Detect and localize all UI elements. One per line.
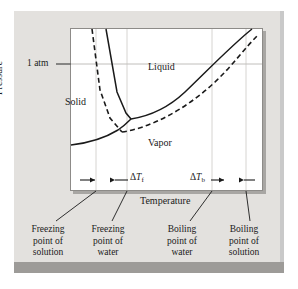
callout-line-3: water bbox=[152, 247, 212, 259]
callout-line-2: point of bbox=[214, 236, 274, 248]
delta-tf-label: ΔTf bbox=[130, 172, 144, 184]
callout-freezing-point-water: Freezing point of water bbox=[78, 224, 138, 259]
vertical-gridlines bbox=[96, 29, 246, 190]
water-liquid-vapor-curve bbox=[131, 29, 252, 119]
subscript-b: b bbox=[201, 176, 205, 184]
subscript-f: f bbox=[141, 176, 143, 184]
leader-boiling-point-water bbox=[190, 191, 212, 221]
callout-line-1: Boiling bbox=[152, 224, 212, 236]
callout-boiling-point-solution: Boiling point of solution bbox=[214, 224, 274, 259]
liquid-region-label: Liquid bbox=[148, 61, 175, 72]
callout-boiling-point-water: Boiling point of water bbox=[152, 224, 212, 259]
leader-boiling-point-solution bbox=[246, 191, 250, 221]
solution-liquid-vapor-curve bbox=[122, 35, 258, 132]
callout-line-2: point of bbox=[78, 236, 138, 248]
callout-line-1: Freezing bbox=[18, 224, 78, 236]
y-axis-label: Pressure bbox=[0, 15, 4, 95]
leader-freezing-point-water bbox=[112, 191, 127, 221]
delta-tb-label: ΔTb bbox=[190, 172, 205, 184]
callout-line-3: solution bbox=[18, 247, 78, 259]
pressure-gridline-label: 1 atm bbox=[27, 58, 48, 68]
leader-freezing-point-solution bbox=[56, 191, 96, 221]
vapor-region-label: Vapor bbox=[148, 137, 172, 148]
callout-line-3: solution bbox=[214, 247, 274, 259]
callout-line-1: Freezing bbox=[78, 224, 138, 236]
phase-diagram-figure: 1 atm Pressure Temperature Solid Liquid … bbox=[0, 0, 298, 289]
callout-line-2: point of bbox=[18, 236, 78, 248]
callout-freezing-point-solution: Freezing point of solution bbox=[18, 224, 78, 259]
callout-line-2: point of bbox=[152, 236, 212, 248]
callout-line-1: Boiling bbox=[214, 224, 274, 236]
callout-line-3: water bbox=[78, 247, 138, 259]
solid-region-label: Solid bbox=[65, 96, 86, 107]
x-axis-label: Temperature bbox=[140, 195, 190, 206]
